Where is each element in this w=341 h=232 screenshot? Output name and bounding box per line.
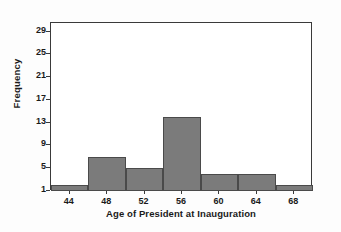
y-tick-label: 17 — [14, 93, 46, 103]
histogram-bar — [126, 168, 163, 191]
x-tick-label: 56 — [161, 196, 201, 206]
y-tick-label: 5 — [14, 161, 46, 171]
histogram-bar — [163, 117, 200, 191]
histogram-bar — [238, 174, 275, 191]
histogram-bar — [51, 185, 88, 191]
histogram-figure: Frequency 1591317212529 44485256606468 A… — [0, 0, 341, 232]
x-tick-label: 44 — [49, 196, 89, 206]
x-tick-label: 68 — [273, 196, 313, 206]
y-tick-label: 25 — [14, 47, 46, 57]
histogram-bar — [201, 174, 238, 191]
histogram-bar — [276, 185, 313, 191]
x-tick-label: 48 — [86, 196, 126, 206]
plot-area — [50, 22, 312, 190]
y-tick-label: 13 — [14, 116, 46, 126]
y-tick-label: 1 — [14, 184, 46, 194]
x-tick-label: 64 — [236, 196, 276, 206]
y-tick-label: 9 — [14, 138, 46, 148]
x-axis-title: Age of President at Inauguration — [50, 208, 312, 219]
y-tick-label: 29 — [14, 25, 46, 35]
y-tick-label: 21 — [14, 70, 46, 80]
x-tick-label: 52 — [124, 196, 164, 206]
y-tick-mark — [46, 190, 50, 191]
histogram-bar — [88, 157, 125, 191]
x-tick-label: 60 — [198, 196, 238, 206]
